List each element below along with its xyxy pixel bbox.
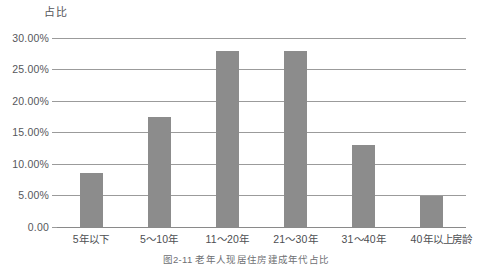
- y-tick-label-30: 30.00%: [0, 32, 49, 44]
- figure-caption: 图2-11 老年人现居住房建成年代占比: [0, 252, 492, 266]
- x-axis-title: 房龄: [452, 231, 472, 246]
- x-axis-line: [57, 227, 466, 228]
- y-tick-label-10: 10.00%: [0, 158, 49, 170]
- bar-1[interactable]: [148, 117, 171, 227]
- bar-3[interactable]: [284, 51, 307, 227]
- bar-5[interactable]: [420, 196, 443, 228]
- tick-stub-0: [52, 227, 57, 228]
- bar-2[interactable]: [216, 51, 239, 227]
- y-tick-label-0: 0.00: [0, 221, 49, 233]
- x-tick-label-1: 5～10年: [140, 231, 179, 246]
- y-axis-title: 占比: [44, 3, 67, 19]
- bar-4[interactable]: [352, 145, 375, 227]
- y-tick-label-25: 25.00%: [0, 63, 49, 75]
- bars-layer: [57, 38, 466, 227]
- y-tick-label-15: 15.00%: [0, 126, 49, 138]
- x-tick-label-2: 11～20年: [206, 231, 250, 246]
- x-tick-label-4: 31～40年: [341, 231, 386, 246]
- bar-0[interactable]: [80, 173, 103, 227]
- y-tick-label-20: 20.00%: [0, 95, 49, 107]
- x-tick-label-5: 40年以上: [411, 231, 454, 246]
- y-tick-label-5: 5.00%: [0, 189, 49, 201]
- x-tick-label-0: 5年以下: [73, 231, 110, 246]
- x-tick-label-3: 21～30年: [273, 231, 318, 246]
